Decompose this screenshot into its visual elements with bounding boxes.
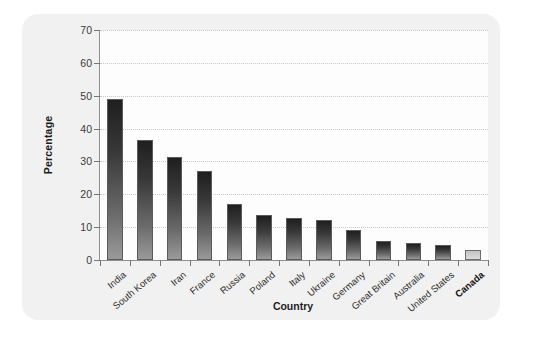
x-axis-tick bbox=[428, 260, 429, 266]
x-axis-tick bbox=[219, 260, 220, 266]
y-axis-tick bbox=[94, 96, 100, 97]
bar bbox=[406, 243, 422, 260]
bar bbox=[197, 171, 213, 260]
y-axis-tick bbox=[94, 227, 100, 228]
gridline bbox=[100, 30, 488, 31]
y-axis-tick-label: 60 bbox=[80, 57, 92, 69]
y-axis-tick-label: 40 bbox=[80, 123, 92, 135]
x-axis-title: Country bbox=[273, 300, 313, 312]
gridline bbox=[100, 161, 488, 162]
bar bbox=[286, 218, 302, 260]
y-axis-tick bbox=[94, 194, 100, 195]
y-axis-title: Percentage bbox=[42, 116, 54, 175]
bar bbox=[435, 245, 451, 260]
bar bbox=[227, 204, 243, 260]
bar bbox=[137, 140, 153, 260]
gridline bbox=[100, 129, 488, 130]
x-axis-tick bbox=[100, 260, 101, 266]
bar bbox=[465, 250, 481, 260]
gridline bbox=[100, 96, 488, 97]
y-axis-tick-label: 30 bbox=[80, 155, 92, 167]
x-axis-tick bbox=[458, 260, 459, 266]
x-axis-tick bbox=[309, 260, 310, 266]
chart-figure: Percentage 010203040506070 IndiaSouth Ko… bbox=[0, 0, 547, 340]
gridline bbox=[100, 194, 488, 195]
x-axis-tick bbox=[130, 260, 131, 266]
y-axis-tick-label: 10 bbox=[80, 221, 92, 233]
bar bbox=[346, 230, 362, 260]
gridline bbox=[100, 63, 488, 64]
x-axis-tick bbox=[339, 260, 340, 266]
y-axis-tick-label: 50 bbox=[80, 90, 92, 102]
y-axis-tick-label: 0 bbox=[86, 254, 92, 266]
bar bbox=[316, 220, 332, 260]
x-axis-tick bbox=[160, 260, 161, 266]
y-axis-tick bbox=[94, 63, 100, 64]
x-axis-tick bbox=[488, 260, 489, 266]
y-axis-tick-label: 70 bbox=[80, 24, 92, 36]
bar bbox=[167, 157, 183, 261]
plot-area: 010203040506070 IndiaSouth KoreaIranFran… bbox=[99, 30, 488, 261]
bar bbox=[376, 241, 392, 260]
bar bbox=[256, 215, 272, 260]
x-axis-tick bbox=[190, 260, 191, 266]
y-axis-tick bbox=[94, 30, 100, 31]
y-axis-tick bbox=[94, 161, 100, 162]
bar bbox=[107, 99, 123, 260]
x-axis-tick bbox=[369, 260, 370, 266]
x-axis-tick bbox=[279, 260, 280, 266]
x-axis-tick bbox=[398, 260, 399, 266]
y-axis-tick bbox=[94, 129, 100, 130]
y-axis-tick-label: 20 bbox=[80, 188, 92, 200]
x-axis-tick bbox=[249, 260, 250, 266]
